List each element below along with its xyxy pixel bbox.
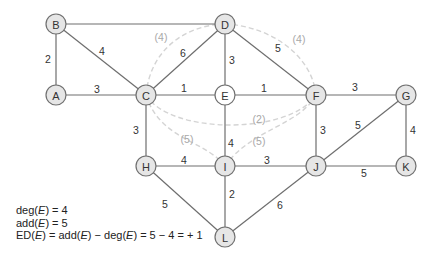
node-c: C (136, 85, 156, 105)
edge-weight-label: 4 (410, 124, 416, 136)
edge-g-j (316, 95, 406, 166)
add-line: add(E) = 5 (16, 217, 203, 230)
node-label: F (313, 90, 320, 102)
edge-b-c (56, 24, 146, 95)
edge-weight-label: 1 (181, 82, 187, 94)
dashed-arc-i-f (225, 95, 316, 166)
node-label: E (221, 90, 228, 102)
node-j: J (306, 156, 326, 176)
node-f: F (306, 85, 326, 105)
node-d: D (215, 14, 235, 34)
edge-weight-label: 3 (320, 124, 326, 136)
edge-weight-label: 4 (99, 45, 105, 57)
node-h: H (136, 156, 156, 176)
node-i: I (215, 156, 235, 176)
edge-weight-label: 3 (264, 154, 270, 166)
edge-weight-label: 5 (355, 119, 361, 131)
edge-weight-label: 2 (45, 53, 51, 65)
edge-weight-label: 3 (94, 83, 100, 95)
node-k: K (396, 156, 416, 176)
ed-line: ED(E) = add(E) − deg(E) = 5 − 4 = + 1 (16, 229, 203, 242)
node-a: A (46, 85, 66, 105)
edge-weight-label: 1 (261, 82, 267, 94)
edge-weight-label: 5 (275, 42, 281, 54)
node-label: C (142, 90, 150, 102)
edge-weight-label: 3 (229, 54, 235, 66)
node-label: B (52, 19, 59, 31)
node-g: G (396, 85, 416, 105)
node-label: I (223, 161, 226, 173)
deg-line: deg(E) = 4 (16, 204, 203, 217)
edge-weight-label: 6 (277, 199, 283, 211)
node-label: K (402, 161, 410, 173)
added-edge-weight-label: (4) (293, 33, 306, 45)
node-label: G (402, 90, 411, 102)
added-edge-weight-label: (4) (155, 31, 168, 43)
edge-weight-label: 4 (228, 137, 234, 149)
formula-notes: deg(E) = 4 add(E) = 5 ED(E) = add(E) − d… (16, 204, 203, 242)
node-l: L (215, 227, 235, 247)
added-edge-weight-label: (5) (253, 135, 266, 147)
edge-weight-label: 6 (180, 47, 186, 59)
node-b: B (46, 14, 66, 34)
node-e: E (215, 85, 235, 105)
node-label: J (313, 161, 319, 173)
edge-weight-label: 2 (229, 188, 235, 200)
node-label: H (142, 161, 150, 173)
edge-j-l (225, 166, 316, 237)
edge-weight-labels: 24361351334354435526 (45, 42, 416, 211)
node-label: D (221, 19, 229, 31)
edge-weight-label: 5 (361, 167, 367, 179)
node-label: L (222, 232, 228, 244)
node-label: A (52, 90, 60, 102)
edge-weight-label: 4 (181, 154, 187, 166)
edge-weight-label: 3 (133, 124, 139, 136)
edge-weight-label: 3 (352, 81, 358, 93)
added-edge-weight-label: (5) (181, 133, 194, 145)
added-edge-weight-label: (2) (253, 113, 266, 125)
